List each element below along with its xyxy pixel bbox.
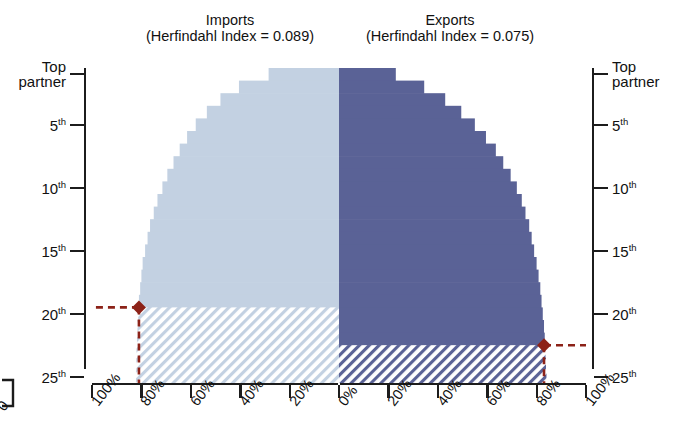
ordinal-suffix: th bbox=[58, 368, 66, 379]
bar-exports-rank-8 bbox=[339, 156, 503, 169]
bar-exports-rank-4 bbox=[339, 106, 461, 119]
y-tick-right-1 bbox=[594, 73, 608, 75]
y-label-line1: Top bbox=[612, 59, 660, 74]
y-axis-label-right-10: 10th bbox=[612, 180, 637, 197]
imports-title-sublabel: (Herfindahl Index = 0.089) bbox=[130, 28, 330, 44]
bar-exports-rank-9 bbox=[339, 169, 511, 182]
bar-imports-rank-9 bbox=[167, 169, 339, 182]
bar-imports-rank-12 bbox=[154, 207, 339, 220]
y-axis-label-right-1: Toppartner bbox=[612, 59, 660, 90]
bar-exports-rank-7 bbox=[339, 144, 496, 157]
bar-exports-rank-21 bbox=[339, 320, 544, 333]
bar-exports-rank-5 bbox=[339, 118, 475, 131]
y-tick-right-15 bbox=[594, 250, 608, 252]
ordinal-suffix: th bbox=[58, 116, 66, 127]
bar-imports-rank-15 bbox=[145, 244, 339, 257]
bar-exports-rank-3 bbox=[339, 93, 445, 106]
bar-exports-rank-22 bbox=[339, 333, 545, 346]
bar-imports-rank-5 bbox=[196, 118, 339, 131]
y-axis-label-left-20: 20th bbox=[41, 306, 66, 323]
panel-title-exports: Exports (Herfindahl Index = 0.075) bbox=[345, 12, 555, 44]
bar-imports-rank-19 bbox=[139, 295, 339, 308]
bar-exports-rank-10 bbox=[339, 181, 517, 194]
bar-exports-rank-25 bbox=[339, 370, 546, 383]
ordinal-suffix: th bbox=[58, 179, 66, 190]
bar-imports-rank-2 bbox=[239, 81, 339, 94]
bar-imports-rank-17 bbox=[141, 270, 339, 283]
bar-imports-rank-21 bbox=[137, 320, 339, 333]
y-tick-left-10 bbox=[70, 187, 84, 189]
ordinal-suffix: th bbox=[58, 305, 66, 316]
bar-imports-rank-7 bbox=[180, 144, 339, 157]
bar-imports-rank-14 bbox=[148, 232, 339, 245]
bar-exports-rank-15 bbox=[339, 244, 534, 257]
bars-exports bbox=[339, 68, 546, 383]
y-tick-left-1 bbox=[70, 73, 84, 75]
y-axis-label-left-10: 10th bbox=[41, 180, 66, 197]
bar-imports-rank-20 bbox=[138, 307, 339, 320]
bar-imports-rank-23 bbox=[136, 345, 339, 358]
y-axis-label-left-1: Toppartner bbox=[18, 59, 66, 90]
bar-imports-rank-8 bbox=[174, 156, 339, 169]
exports-title-sublabel: (Herfindahl Index = 0.075) bbox=[345, 28, 555, 44]
bar-imports-rank-13 bbox=[150, 219, 339, 232]
bar-exports-rank-24 bbox=[339, 358, 546, 371]
bar-exports-rank-12 bbox=[339, 207, 525, 220]
ordinal-suffix: th bbox=[629, 305, 637, 316]
plot-area bbox=[92, 66, 586, 383]
y-axis-label-right-25: 25th bbox=[612, 369, 637, 386]
y-tick-left-15 bbox=[70, 250, 84, 252]
ordinal-suffix: th bbox=[629, 368, 637, 379]
y-axis-right-spine bbox=[592, 68, 594, 369]
bar-imports-rank-3 bbox=[220, 93, 339, 106]
bar-imports-rank-10 bbox=[162, 181, 339, 194]
y-label-line2: partner bbox=[612, 74, 660, 89]
exports-title-label: Exports bbox=[345, 12, 555, 28]
bar-imports-rank-11 bbox=[157, 194, 339, 207]
y-axis-left-spine bbox=[84, 68, 86, 369]
y-tick-right-20 bbox=[594, 313, 608, 315]
plot-svg bbox=[92, 66, 586, 383]
bars-imports bbox=[136, 68, 339, 383]
bar-exports-rank-19 bbox=[339, 295, 542, 308]
bar-exports-rank-20 bbox=[339, 307, 543, 320]
y-tick-left-5 bbox=[70, 124, 84, 126]
bar-imports-rank-16 bbox=[143, 257, 339, 270]
bar-exports-rank-23 bbox=[339, 345, 545, 358]
bar-imports-rank-1 bbox=[269, 68, 339, 81]
y-tick-right-5 bbox=[594, 124, 608, 126]
bar-imports-rank-24 bbox=[136, 358, 339, 371]
bar-exports-rank-17 bbox=[339, 270, 539, 283]
y-axis-label-left-25: 25th bbox=[41, 369, 66, 386]
y-axis-label-right-5: 5th bbox=[612, 117, 628, 134]
y-label-line2: partner bbox=[18, 74, 66, 89]
chart-root: Imports (Herfindahl Index = 0.089) Expor… bbox=[0, 0, 678, 444]
bar-imports-rank-18 bbox=[140, 282, 339, 295]
y-label-line1: Top bbox=[18, 59, 66, 74]
ordinal-suffix: th bbox=[629, 179, 637, 190]
bar-imports-rank-4 bbox=[207, 106, 339, 119]
ordinal-suffix: th bbox=[620, 116, 628, 127]
ordinal-suffix: th bbox=[58, 242, 66, 253]
y-tick-left-20 bbox=[70, 313, 84, 315]
bar-exports-rank-6 bbox=[339, 131, 486, 144]
y-tick-left-25 bbox=[70, 376, 84, 378]
bar-exports-rank-18 bbox=[339, 282, 540, 295]
y-axis-label-left-5: 5th bbox=[50, 117, 66, 134]
bar-exports-rank-13 bbox=[339, 219, 529, 232]
bar-exports-rank-11 bbox=[339, 194, 522, 207]
bar-exports-rank-2 bbox=[339, 81, 424, 94]
ordinal-suffix: th bbox=[629, 242, 637, 253]
bar-exports-rank-14 bbox=[339, 232, 532, 245]
y-axis-label-right-20: 20th bbox=[612, 306, 637, 323]
bar-exports-rank-1 bbox=[339, 68, 396, 81]
y-tick-right-10 bbox=[594, 187, 608, 189]
bar-exports-rank-16 bbox=[339, 257, 537, 270]
bar-imports-rank-6 bbox=[187, 131, 339, 144]
bar-imports-rank-22 bbox=[137, 333, 339, 346]
imports-title-label: Imports bbox=[130, 12, 330, 28]
panel-title-imports: Imports (Herfindahl Index = 0.089) bbox=[130, 12, 330, 44]
y-axis-label-right-15: 15th bbox=[612, 243, 637, 260]
y-axis-label-left-15: 15th bbox=[41, 243, 66, 260]
